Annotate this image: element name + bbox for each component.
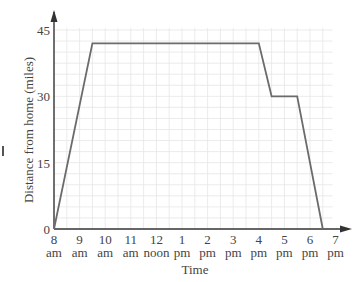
x-tick-sublabel: pm [225,245,242,260]
x-tick-sublabel: noon [143,245,170,260]
margin-mark [2,146,4,156]
chart-grid [54,28,333,229]
x-axis-title: Time [182,262,209,277]
x-tick-sublabel: am [46,245,62,260]
x-tick-sublabel: pm [327,245,344,260]
y-tick-label: 45 [37,23,50,38]
y-axis-ticks: 0153045 [37,23,50,237]
x-tick-sublabel: pm [174,245,191,260]
distance-line [54,43,323,229]
x-tick-sublabel: pm [276,245,293,260]
y-axis-title: Distance from home (miles) [21,57,36,203]
distance-time-chart: 0153045 8am9am10am11am12noon1pm2pm3pm4pm… [0,0,358,282]
y-tick-label: 30 [37,89,50,104]
x-tick-sublabel: pm [250,245,267,260]
x-axis-arrow-icon [340,226,352,233]
x-tick-sublabel: am [72,245,88,260]
x-tick-sublabel: pm [199,245,216,260]
x-tick-sublabel: pm [302,245,319,260]
y-tick-label: 15 [37,156,50,171]
x-axis-ticks: 8am9am10am11am12noon1pm2pm3pm4pm5pm6pm7p… [46,232,344,260]
x-tick-sublabel: am [123,245,139,260]
y-tick-label: 0 [44,222,51,237]
x-tick-sublabel: am [97,245,113,260]
y-axis-arrow-icon [51,10,58,22]
